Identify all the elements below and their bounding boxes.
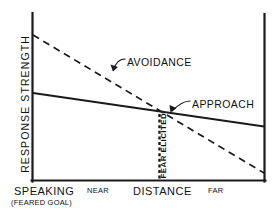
y-axis-title: RESPONSE STRENGTH: [19, 19, 31, 189]
x-axis-origin-label: SPEAKING: [14, 185, 74, 197]
approach-callout-arrow: [172, 101, 190, 111]
x-axis-tick-near: NEAR: [87, 186, 109, 195]
x-axis-tick-far: FAR: [208, 186, 224, 195]
approach-avoidance-conflict-figure: RESPONSE STRENGTH AVOIDANCE APPROACH FEA…: [0, 0, 280, 221]
x-axis-origin-sublabel: (FEARED GOAL): [11, 198, 72, 207]
avoidance-label: AVOIDANCE: [127, 56, 192, 68]
approach-label: APPROACH: [192, 98, 254, 110]
fear-elicited-label: FEAR ELICITED: [159, 119, 168, 179]
avoidance-arrowhead-icon: [111, 65, 119, 72]
x-axis-title: DISTANCE: [133, 185, 192, 197]
approach-arrowhead-icon: [170, 105, 177, 113]
